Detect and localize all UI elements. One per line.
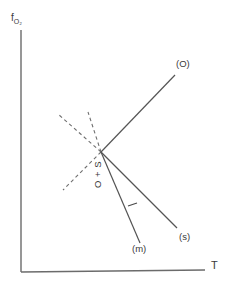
curve-line-O [101,75,175,152]
curve-label-m: (m) [132,244,146,254]
curve-label-s: (s) [179,232,190,242]
curve-label-o: (O) [176,59,190,69]
curve-line-s [101,152,177,228]
y-axis-label: fO₂ [11,13,22,25]
phase-diagram-figure: fO₂ T (O) (s) (m) O + S [0,0,230,289]
curve-line-m [101,152,140,243]
x-axis-line [21,270,205,272]
x-axis-label: T [211,260,218,271]
region-label-o-plus-s: O + S [93,161,103,188]
y-axis-label-subscript: O₂ [14,18,22,25]
tick-mark-icon [128,203,137,206]
plot-canvas [0,0,230,289]
